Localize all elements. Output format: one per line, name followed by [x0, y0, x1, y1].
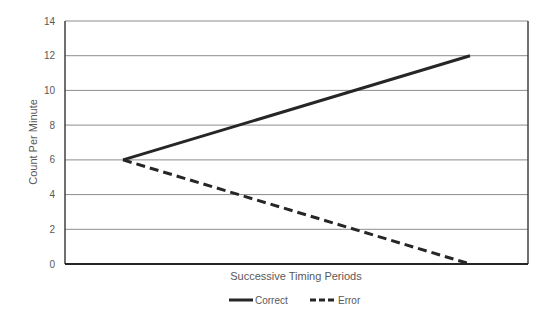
- gridlines: [65, 21, 528, 229]
- y-tick-0: 0: [49, 259, 55, 270]
- y-tick-12: 12: [44, 50, 56, 61]
- y-axis-title: Count Per Minute: [27, 99, 39, 185]
- legend-error-label: Error: [338, 295, 361, 306]
- legend: Correct Error: [229, 295, 361, 306]
- y-tick-4: 4: [49, 189, 55, 200]
- y-tick-10: 10: [44, 85, 56, 96]
- series-error-line: [123, 160, 470, 264]
- line-chart: 14 12 10 8 6 4 2 0 Count Per Minute Succ…: [0, 0, 558, 329]
- y-tick-labels: 14 12 10 8 6 4 2 0: [44, 16, 56, 270]
- legend-correct-label: Correct: [255, 295, 288, 306]
- y-tick-2: 2: [49, 224, 55, 235]
- y-tick-8: 8: [49, 120, 55, 131]
- x-axis-title: Successive Timing Periods: [230, 270, 362, 282]
- series-correct-line: [123, 56, 470, 160]
- y-tick-14: 14: [44, 16, 56, 27]
- y-tick-6: 6: [49, 154, 55, 165]
